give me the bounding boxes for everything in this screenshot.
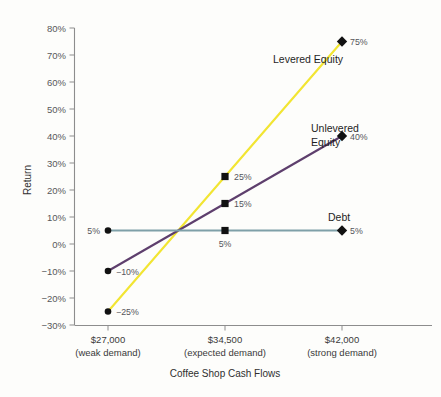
y-tick-label-70: 70% — [47, 50, 67, 61]
y-tick-label-60: 60% — [47, 77, 67, 88]
series-label-unlevered-equity-line1: Unlevered — [311, 122, 359, 134]
y-tick-label-0: 0% — [52, 239, 66, 250]
series-label-debt: Debt — [328, 211, 350, 223]
debt-point-expected — [221, 227, 228, 234]
chart-page: 80% 70% 60% 50% 40% 30% 20% 10% 0% −10% … — [0, 0, 441, 397]
y-tick-label-50: 50% — [47, 104, 67, 115]
series-label-unlevered-equity-line2: Equity — [311, 136, 341, 148]
unlevered-equity-value-weak: −10% — [116, 267, 139, 277]
y-tick-label-40: 40% — [47, 131, 67, 142]
y-tick-label-neg10: −10% — [41, 266, 66, 277]
series-debt: 5% 5% 5% Debt — [87, 211, 363, 249]
y-tick-label-20: 20% — [47, 185, 67, 196]
y-tick-label-30: 30% — [47, 158, 67, 169]
series-label-levered-equity: Levered Equity — [273, 53, 344, 65]
unlevered-equity-value-expected: 15% — [234, 199, 252, 209]
debt-point-strong — [337, 225, 347, 235]
debt-point-weak — [105, 227, 112, 234]
x-tick-label-42000: $42,000 — [325, 334, 359, 345]
y-axis: 80% 70% 60% 50% 40% 30% 20% 10% 0% −10% … — [22, 23, 75, 331]
x-axis-title: Coffee Shop Cash Flows — [170, 368, 280, 379]
unlevered-equity-point-expected — [221, 200, 228, 207]
debt-value-expected: 5% — [219, 239, 232, 249]
x-sublabel-weak-demand: (weak demand) — [75, 347, 140, 358]
returns-line-chart: 80% 70% 60% 50% 40% 30% 20% 10% 0% −10% … — [0, 0, 441, 397]
levered-equity-point-expected — [221, 173, 228, 180]
levered-equity-value-weak: −25% — [116, 307, 139, 317]
debt-value-strong: 5% — [350, 226, 363, 236]
unlevered-equity-point-weak — [105, 268, 112, 275]
levered-equity-point-weak — [105, 308, 112, 315]
levered-equity-value-strong: 75% — [350, 37, 368, 47]
x-tick-label-34500: $34,500 — [208, 334, 242, 345]
x-sublabel-strong-demand: (strong demand) — [307, 347, 377, 358]
debt-value-weak: 5% — [87, 226, 100, 236]
y-tick-label-neg30: −30% — [41, 320, 66, 331]
series-levered-equity: −25% 25% 75% Levered Equity — [105, 36, 368, 316]
y-tick-label-neg20: −20% — [41, 293, 66, 304]
y-axis-title: Return — [22, 165, 33, 195]
series-unlevered-equity: −10% 15% 40% Unlevered Equity — [105, 122, 368, 277]
y-tick-label-80: 80% — [47, 23, 67, 34]
x-tick-label-27000: $27,000 — [91, 334, 125, 345]
levered-equity-value-expected: 25% — [234, 172, 252, 182]
x-sublabel-expected-demand: (expected demand) — [184, 347, 266, 358]
y-tick-label-10: 10% — [47, 212, 67, 223]
x-axis: $27,000 (weak demand) $34,500 (expected … — [75, 326, 433, 380]
